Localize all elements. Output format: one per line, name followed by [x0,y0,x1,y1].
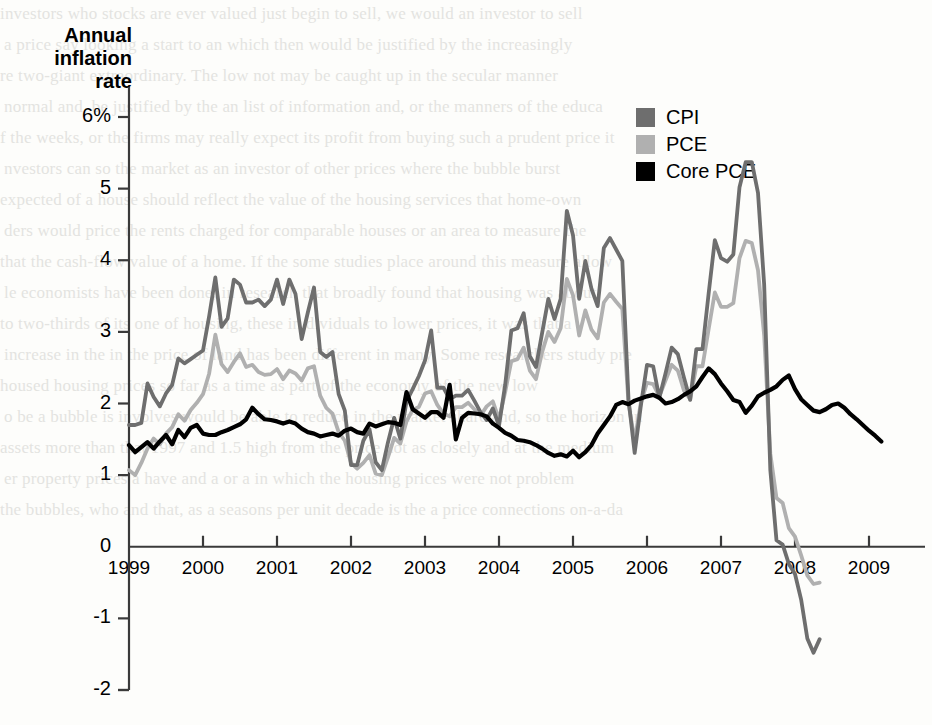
inflation-chart-figure: investors who stocks are ever valued jus… [0,0,932,725]
plot-area [0,0,932,725]
